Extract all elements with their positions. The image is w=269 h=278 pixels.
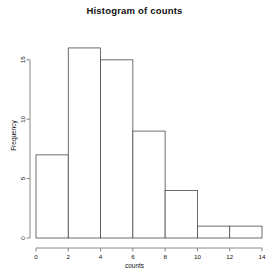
x-axis-tick-label: 6 bbox=[131, 253, 135, 260]
histogram-plot: Histogram of counts 05101502468101214 co… bbox=[0, 0, 269, 278]
y-axis-tick-label: 0 bbox=[19, 236, 26, 240]
histogram-bar bbox=[36, 155, 68, 238]
x-axis-tick-label: 8 bbox=[163, 253, 167, 260]
x-axis-tick-label: 10 bbox=[194, 253, 201, 260]
chart-canvas: 05101502468101214 bbox=[0, 0, 269, 278]
y-axis-tick-label: 15 bbox=[19, 56, 26, 63]
x-axis-tick-label: 2 bbox=[67, 253, 71, 260]
y-axis-tick-label: 10 bbox=[19, 115, 26, 122]
x-axis-tick-label: 12 bbox=[226, 253, 233, 260]
x-axis-label: counts bbox=[0, 262, 269, 269]
histogram-bar bbox=[197, 226, 229, 238]
histogram-bar bbox=[101, 60, 133, 238]
histogram-bar bbox=[68, 48, 100, 238]
x-axis-tick-label: 14 bbox=[259, 253, 266, 260]
x-axis-tick-label: 4 bbox=[99, 253, 103, 260]
y-axis-tick-label: 5 bbox=[19, 176, 26, 180]
histogram-bar bbox=[230, 226, 262, 238]
histogram-bar bbox=[133, 131, 165, 238]
x-axis-tick-label: 0 bbox=[34, 253, 38, 260]
y-axis-label: Frequency bbox=[10, 106, 17, 166]
histogram-bar bbox=[165, 190, 197, 238]
